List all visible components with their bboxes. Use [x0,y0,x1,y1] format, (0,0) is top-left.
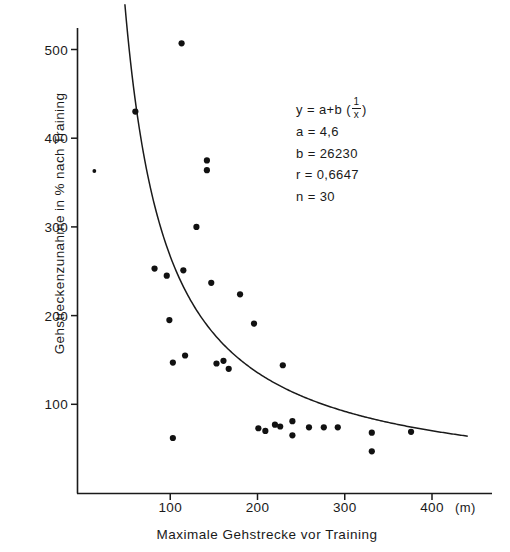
data-point [166,317,172,323]
data-point [277,423,283,429]
data-point [170,360,176,366]
regression-annotation: y = a+b ( 1 x ) a = 4,6 b = 26230 r = 0,… [296,98,367,207]
data-point [289,418,295,424]
data-point [321,424,327,430]
data-point [180,267,186,273]
x-tick-label: 100 [140,500,200,515]
plot-canvas [0,0,510,552]
data-point [182,352,188,358]
data-point [208,280,214,286]
data-point [262,428,268,434]
data-point [164,273,170,279]
regression-curve [125,4,468,436]
data-point [132,108,138,114]
y-tick-label: 100 [24,397,68,412]
data-point [170,435,176,441]
x-tick-label: 300 [315,500,375,515]
data-point [289,432,295,438]
x-axis-ticks [170,494,432,501]
annotation-equation-lhs: y = a+b ( [296,99,351,121]
data-point [306,424,312,430]
fraction-numerator: 1 [352,97,360,107]
data-point [280,362,286,368]
annotation-coefficient-b: b = 26230 [296,143,367,165]
data-point [193,224,199,230]
data-point [92,169,96,173]
data-point [369,448,375,454]
annotation-equation-rhs: ) [362,99,367,121]
y-axis-ticks [71,50,78,405]
y-axis-title: Gehstreckenzunahme in % nach Training [52,59,67,389]
data-point [251,320,257,326]
scatter-chart-figure: 100200300400500 100200300400 Gehstrecken… [0,0,510,552]
x-axis-title: Maximale Gehstrecke vor Training [77,527,457,542]
data-point [213,360,219,366]
y-tick-label: 500 [24,42,68,57]
data-point [408,429,414,435]
annotation-sample-size-n: n = 30 [296,186,367,208]
x-tick-label: 400 [402,500,462,515]
data-point [178,40,184,46]
data-point [237,291,243,297]
data-point [151,265,157,271]
data-point [226,366,232,372]
data-point [335,424,341,430]
data-point [220,358,226,364]
data-point [369,430,375,436]
data-point [255,425,261,431]
annotation-fraction: 1 x [352,97,361,120]
x-axis-unit-label: (m) [455,500,476,515]
data-point [204,167,210,173]
x-tick-label: 200 [228,500,288,515]
annotation-equation: y = a+b ( 1 x ) [296,98,367,121]
annotation-coefficient-a: a = 4,6 [296,121,367,143]
annotation-correlation-r: r = 0,6647 [296,164,367,186]
fraction-denominator: x [353,110,360,120]
data-point [204,157,210,163]
